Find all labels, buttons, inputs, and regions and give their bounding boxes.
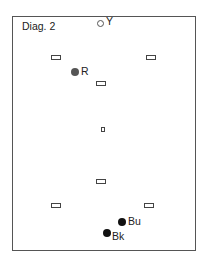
- spot-marker-bottom-left: [51, 203, 61, 208]
- table-frame: [12, 16, 196, 251]
- red-ball: [71, 68, 79, 76]
- spot-marker-top-right: [146, 55, 156, 60]
- yellow-ball: [97, 20, 104, 27]
- spot-marker-top-left: [51, 55, 61, 60]
- spot-marker-bottom-right: [144, 203, 154, 208]
- blue-ball: [118, 218, 126, 226]
- diagram-title: Diag. 2: [22, 20, 55, 32]
- yellow-ball-label: Y: [106, 15, 113, 27]
- black-ball: [103, 229, 111, 237]
- spot-marker-lower-center: [96, 179, 106, 184]
- spot-marker-upper-center: [96, 81, 106, 86]
- spot-marker-center: [101, 127, 105, 132]
- red-ball-label: R: [81, 65, 89, 77]
- blue-ball-label: Bu: [128, 215, 141, 227]
- black-ball-label: Bk: [112, 230, 124, 242]
